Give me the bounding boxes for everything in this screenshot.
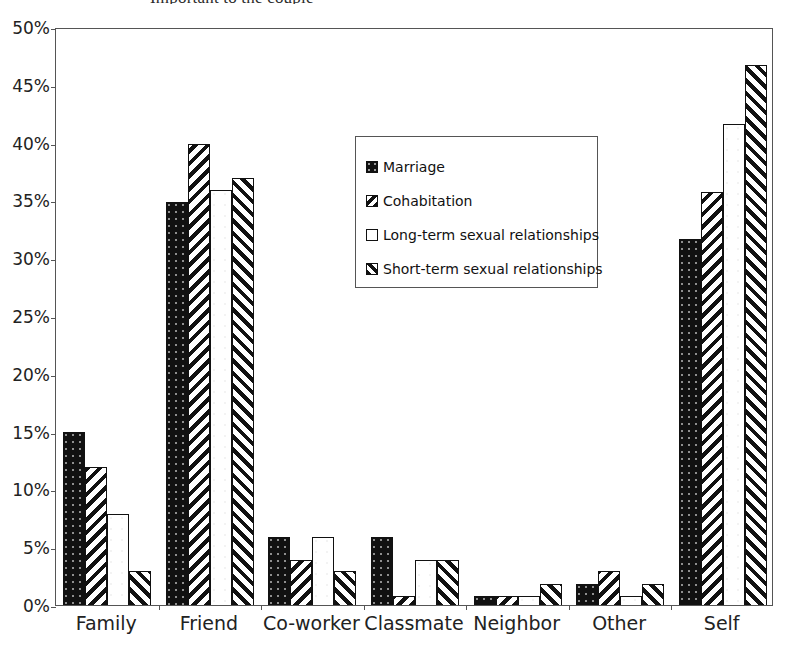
y-axis-tick-label: 5% xyxy=(4,540,50,557)
bar xyxy=(129,571,151,605)
x-axis-tick-label: Friend xyxy=(180,612,238,634)
bar xyxy=(474,596,496,605)
bar xyxy=(268,537,290,605)
bar xyxy=(496,596,518,605)
x-axis-tick-mark xyxy=(159,605,160,610)
bar xyxy=(188,144,210,605)
y-axis-tick-label: 30% xyxy=(4,251,50,268)
y-axis: 0%5%10%15%20%25%30%35%40%45%50% xyxy=(0,0,50,666)
bar xyxy=(745,65,767,605)
legend-item: Cohabitation xyxy=(366,184,597,218)
y-axis-tick-mark xyxy=(51,607,56,608)
bar xyxy=(85,467,107,605)
bar xyxy=(63,432,85,605)
bar-group xyxy=(569,29,672,605)
bar xyxy=(518,596,540,605)
bar xyxy=(576,584,598,605)
legend-item: Long-term sexual relationships xyxy=(366,218,597,252)
bar xyxy=(371,537,393,605)
bar xyxy=(290,560,312,605)
bar-group xyxy=(364,29,467,605)
y-axis-tick-label: 50% xyxy=(4,20,50,37)
y-axis-tick-label: 10% xyxy=(4,482,50,499)
legend-swatch-icon xyxy=(366,161,378,173)
plot-area xyxy=(55,28,773,606)
legend-swatch-icon xyxy=(366,229,378,241)
bar xyxy=(107,514,129,605)
bar-group xyxy=(671,29,774,605)
bar-chart-figure: Important to the couple 0%5%10%15%20%25%… xyxy=(0,0,787,666)
chart-legend: MarriageCohabitationLong-term sexual rel… xyxy=(355,136,598,288)
bar-group xyxy=(56,29,159,605)
x-axis-tick-label: Classmate xyxy=(364,612,463,634)
y-axis-tick-label: 35% xyxy=(4,193,50,210)
y-axis-tick-label: 25% xyxy=(4,309,50,326)
plot-inner xyxy=(56,29,772,605)
bar xyxy=(679,239,701,605)
legend-label: Cohabitation xyxy=(383,193,472,209)
x-axis-tick-label: Co-worker xyxy=(263,612,360,634)
legend-swatch-icon xyxy=(366,263,378,275)
legend-swatch-icon xyxy=(366,195,378,207)
bar xyxy=(723,124,745,605)
x-axis-tick-mark xyxy=(261,605,262,610)
legend-label: Short-term sexual relationships xyxy=(383,261,603,277)
x-axis-tick-mark xyxy=(364,605,365,610)
y-axis-tick-label: 15% xyxy=(4,424,50,441)
x-axis: FamilyFriendCo-workerClassmateNeighborOt… xyxy=(55,612,773,652)
y-axis-tick-label: 0% xyxy=(4,598,50,615)
x-axis-tick-label: Self xyxy=(704,612,740,634)
legend-item: Short-term sexual relationships xyxy=(366,252,597,286)
bar xyxy=(642,584,664,605)
bar-group xyxy=(159,29,262,605)
bar xyxy=(334,571,356,605)
x-axis-tick-mark xyxy=(466,605,467,610)
y-axis-tick-label: 40% xyxy=(4,135,50,152)
bar xyxy=(312,537,334,605)
y-axis-tick-label: 45% xyxy=(4,77,50,94)
legend-label: Long-term sexual relationships xyxy=(383,227,599,243)
legend-label: Marriage xyxy=(383,159,445,175)
bar xyxy=(540,584,562,605)
legend-item: Marriage xyxy=(366,150,597,184)
x-axis-tick-label: Other xyxy=(592,612,646,634)
bar xyxy=(393,596,415,605)
x-axis-tick-mark xyxy=(569,605,570,610)
clipped-chart-title: Important to the couple xyxy=(150,0,670,4)
bar-group xyxy=(466,29,569,605)
bar xyxy=(232,178,254,605)
bar xyxy=(210,190,232,605)
bar xyxy=(701,192,723,605)
y-axis-tick-label: 20% xyxy=(4,366,50,383)
bar xyxy=(415,560,437,605)
bar xyxy=(437,560,459,605)
bar xyxy=(166,202,188,605)
x-axis-tick-label: Neighbor xyxy=(473,612,560,634)
bar xyxy=(598,571,620,605)
bar-group xyxy=(261,29,364,605)
x-axis-tick-label: Family xyxy=(76,612,137,634)
x-axis-tick-mark xyxy=(671,605,672,610)
bar xyxy=(620,596,642,605)
